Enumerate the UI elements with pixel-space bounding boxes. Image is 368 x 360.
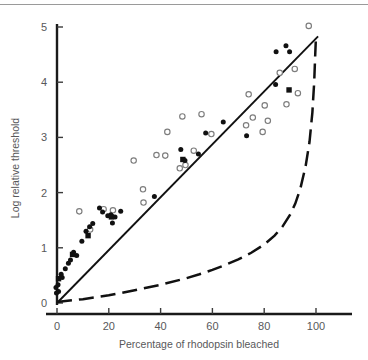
data-point-filled-circle	[178, 147, 183, 152]
data-point-filled-circle	[152, 194, 157, 199]
x-tick-label: 40	[154, 320, 166, 332]
x-tick-label: 100	[307, 320, 325, 332]
axes-group	[46, 24, 352, 314]
data-point-open-circle	[284, 102, 289, 107]
data-point-filled-circle	[196, 151, 201, 156]
data-point-filled-circle	[118, 209, 123, 214]
data-point-open-circle	[209, 131, 214, 136]
data-point-filled-circle	[244, 133, 249, 138]
data-point-open-circle	[199, 112, 204, 117]
data-point-open-circle	[306, 23, 311, 28]
data-point-open-circle	[191, 148, 196, 153]
y-axis-label: Log relative threshold	[9, 118, 21, 219]
data-point-open-circle	[243, 123, 248, 128]
y-tick-label: 5	[41, 21, 47, 33]
rhodopsin-threshold-chart: 012345 020406080100 Percentage of rhodop…	[0, 0, 368, 360]
data-point-open-circle	[262, 103, 267, 108]
data-point-filled-circle	[97, 206, 102, 211]
data-point-filled-square	[286, 87, 291, 92]
data-point-filled-circle	[273, 82, 278, 87]
proportionality-line	[57, 36, 318, 303]
data-point-filled-circle	[79, 239, 84, 244]
data-point-filled-circle	[63, 266, 68, 271]
data-point-open-circle	[180, 114, 185, 119]
data-point-open-circle	[177, 166, 182, 171]
y-tick-label: 3	[41, 131, 47, 143]
x-tick-label: 80	[258, 320, 270, 332]
data-point-filled-circle	[203, 130, 208, 135]
x-tick-label: 0	[54, 320, 60, 332]
data-point-filled-square	[109, 214, 114, 219]
x-tick-label: 60	[206, 320, 218, 332]
data-point-open-circle	[154, 152, 159, 157]
data-point-filled-square	[180, 157, 185, 162]
x-tick-label: 20	[103, 320, 115, 332]
series-filled-circles	[53, 43, 292, 295]
data-point-filled-circle	[56, 289, 61, 294]
data-point-open-circle	[131, 158, 136, 163]
data-point-open-circle	[277, 70, 282, 75]
data-point-filled-circle	[283, 43, 288, 48]
data-point-filled-square	[85, 233, 90, 238]
data-point-filled-circle	[274, 49, 279, 54]
data-point-open-circle	[183, 162, 188, 167]
data-point-filled-square	[70, 252, 75, 257]
data-point-open-circle	[292, 66, 297, 71]
data-point-open-circle	[250, 115, 255, 120]
y-tick-label: 2	[41, 187, 47, 199]
y-tick-label: 0	[41, 297, 47, 309]
data-point-open-circle	[163, 153, 168, 158]
data-point-open-circle	[295, 91, 300, 96]
series-open-circles	[77, 23, 312, 232]
data-point-filled-square	[56, 276, 61, 281]
data-point-open-circle	[246, 92, 251, 97]
data-point-open-circle	[141, 200, 146, 205]
data-point-filled-circle	[90, 221, 95, 226]
data-point-filled-circle	[68, 257, 73, 262]
y-tick-label: 4	[41, 76, 47, 88]
data-point-open-circle	[77, 209, 82, 214]
y-tick-label: 1	[41, 242, 47, 254]
data-point-open-circle	[265, 118, 270, 123]
x-axis-label: Percentage of rhodopsin bleached	[119, 338, 279, 350]
data-point-filled-circle	[100, 209, 105, 214]
data-point-open-circle	[140, 187, 145, 192]
data-point-filled-circle	[287, 49, 292, 54]
data-point-open-circle	[260, 129, 265, 134]
data-point-filled-circle	[56, 282, 61, 287]
x-axis-tick-labels: 020406080100	[54, 320, 325, 332]
y-axis-tick-labels: 012345	[41, 21, 47, 309]
data-point-open-circle	[110, 208, 115, 213]
chart-canvas: 012345 020406080100 Percentage of rhodop…	[0, 0, 368, 360]
data-point-filled-circle	[110, 220, 115, 225]
data-point-filled-circle	[221, 119, 226, 124]
data-point-open-circle	[165, 129, 170, 134]
